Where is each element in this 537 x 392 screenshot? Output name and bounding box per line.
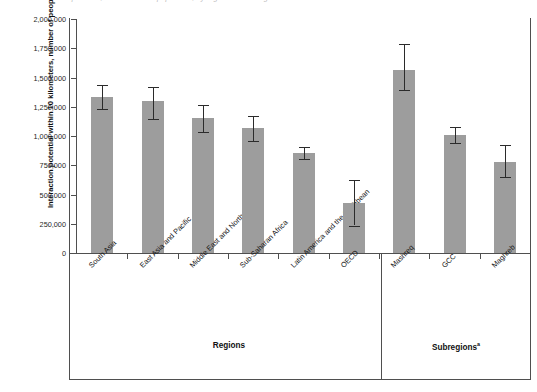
x-axis-separator: [329, 254, 330, 259]
chart-bar: [242, 128, 264, 253]
x-axis-separator: [480, 254, 481, 259]
y-axis-tick: [71, 165, 76, 166]
error-bar-cap-lower: [349, 226, 360, 227]
error-bar: [102, 85, 103, 109]
x-axis-separator: [127, 254, 128, 259]
figure-caption-strip: Interaction potential, urbanization of p…: [0, 0, 537, 9]
error-bar-cap-lower: [148, 119, 159, 120]
error-bar-cap-lower: [248, 141, 259, 142]
error-bar: [203, 105, 204, 132]
y-axis-line: [76, 19, 77, 254]
error-bar-cap-upper: [500, 145, 511, 146]
y-axis-tick-label: 0: [8, 249, 66, 258]
error-bar: [153, 87, 154, 119]
x-axis-separator: [379, 254, 380, 259]
group-label-regions: Regions: [77, 341, 381, 350]
figure-caption: Interaction potential, urbanization of p…: [34, 0, 278, 2]
x-axis-separator: [228, 254, 229, 259]
error-bar-cap-upper: [450, 127, 461, 128]
error-bar-cap-upper: [198, 105, 209, 106]
y-axis-tick-label: 1,750,000: [8, 44, 66, 53]
error-bar-cap-upper: [248, 116, 259, 117]
x-axis-separator: [278, 254, 279, 259]
y-axis-tick: [71, 78, 76, 79]
group-label-subregions: Subregionsa: [382, 341, 530, 352]
y-axis-tick: [71, 19, 76, 20]
chart-bar: [91, 97, 113, 253]
error-bar-cap-upper: [349, 180, 360, 181]
y-axis-tick-label: 1,000,000: [8, 132, 66, 141]
y-axis-tick-label: 250,000: [8, 220, 66, 229]
error-bar: [304, 147, 305, 159]
y-axis-tick: [71, 195, 76, 196]
x-axis-separator: [178, 254, 179, 259]
chart-bar: [192, 118, 214, 253]
chart-bar: [142, 101, 164, 253]
y-axis-tick-label: 1,250,000: [8, 103, 66, 112]
y-axis-tick: [71, 48, 76, 49]
error-bar-cap-lower: [450, 143, 461, 144]
error-bar-cap-upper: [97, 85, 108, 86]
error-bar-cap-lower: [299, 159, 310, 160]
y-axis-tick-label: 1,500,000: [8, 74, 66, 83]
error-bar-cap-upper: [299, 147, 310, 148]
y-axis-tick: [71, 107, 76, 108]
error-bar-cap-lower: [97, 109, 108, 110]
error-bar: [505, 145, 506, 177]
y-axis-tick: [71, 136, 76, 137]
error-bar-cap-lower: [500, 177, 511, 178]
chart-bar: [444, 135, 466, 253]
y-axis-tick-label: 2,000,000: [8, 15, 66, 24]
error-bar: [455, 127, 456, 143]
error-bar: [253, 116, 254, 141]
error-bar-cap-upper: [148, 87, 159, 88]
error-bar-cap-lower: [399, 90, 410, 91]
y-axis-tick-label: 750,000: [8, 161, 66, 170]
y-axis-tick: [71, 224, 76, 225]
y-axis-tick-label: 500,000: [8, 191, 66, 200]
chart-bar: [393, 70, 415, 253]
error-bar: [404, 44, 405, 90]
x-axis-separator: [429, 254, 430, 259]
error-bar-cap-upper: [399, 44, 410, 45]
error-bar-cap-lower: [198, 132, 209, 133]
error-bar: [354, 180, 355, 225]
chart-bar: [293, 153, 315, 253]
y-axis-tick: [71, 253, 76, 254]
group-divider: [381, 254, 382, 380]
